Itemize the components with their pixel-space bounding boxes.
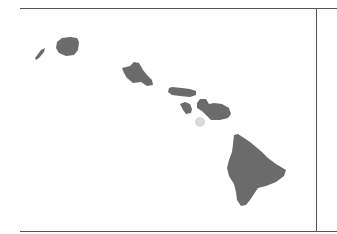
- island-molokai: [168, 87, 196, 97]
- island-hawaii: [227, 134, 286, 206]
- island-oahu: [122, 62, 153, 86]
- island-lanai: [180, 102, 192, 114]
- island-kauai: [56, 37, 79, 56]
- hawaii-map: [0, 0, 337, 234]
- island-maui: [197, 99, 231, 120]
- island-kahoolawe: [195, 117, 205, 127]
- island-niihau: [35, 48, 45, 60]
